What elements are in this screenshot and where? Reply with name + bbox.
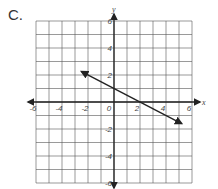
svg-text:-6: -6	[29, 104, 37, 113]
svg-text:2: 2	[107, 71, 113, 80]
plotted-line	[82, 72, 182, 124]
svg-text:6: 6	[108, 17, 113, 26]
svg-text:-2: -2	[81, 104, 89, 113]
svg-text:-6: -6	[105, 179, 113, 188]
coordinate-plane: xy -6-4-20246642-2-4-6	[0, 0, 218, 189]
svg-text:y: y	[111, 5, 116, 14]
svg-text:x: x	[201, 98, 206, 107]
svg-text:0: 0	[107, 104, 112, 113]
svg-text:4: 4	[161, 104, 166, 113]
svg-text:-4: -4	[105, 152, 113, 161]
svg-text:2: 2	[134, 104, 140, 113]
svg-text:6: 6	[187, 104, 192, 113]
svg-text:-2: -2	[105, 125, 113, 134]
svg-text:4: 4	[108, 44, 113, 53]
svg-text:-4: -4	[55, 104, 63, 113]
